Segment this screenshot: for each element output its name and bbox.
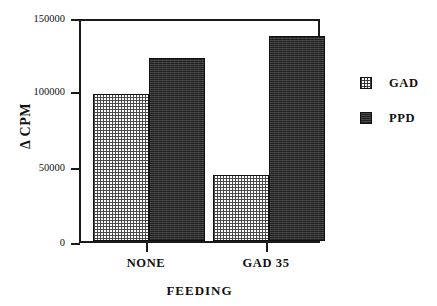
x-axis-title: FEEDING — [79, 283, 320, 299]
bar-ppd-gad35 — [269, 36, 325, 241]
y-tick-label-100000: 100000 — [34, 87, 66, 97]
legend-swatch-gad-icon — [360, 77, 372, 89]
legend-label-ppd: PPD — [389, 111, 415, 126]
bar-ppd-none — [149, 58, 205, 241]
bar-chart-figure: Δ CPM 150000 100000 50000 0 NONE GAD 35 … — [0, 0, 437, 306]
bar-gad-gad35 — [213, 175, 269, 241]
x-tick-label-gad35: GAD 35 — [211, 256, 321, 271]
legend-item-ppd: PPD — [360, 111, 437, 125]
y-tick-mark-0 — [71, 243, 80, 245]
chart-legend: GAD PPD — [360, 76, 437, 146]
x-tick-mark-gad35 — [266, 243, 268, 252]
y-tick-label-0: 0 — [60, 238, 65, 248]
x-tick-label-none: NONE — [91, 256, 201, 271]
legend-item-gad: GAD — [360, 76, 437, 90]
bar-gad-none — [93, 94, 149, 241]
x-tick-mark-none — [146, 243, 148, 252]
y-axis-title: Δ CPM — [18, 81, 34, 171]
legend-label-gad: GAD — [389, 76, 419, 91]
legend-swatch-ppd-icon — [360, 112, 372, 124]
y-tick-label-50000: 50000 — [39, 163, 65, 173]
y-tick-label-150000: 150000 — [34, 14, 66, 24]
plot-area — [79, 19, 320, 243]
